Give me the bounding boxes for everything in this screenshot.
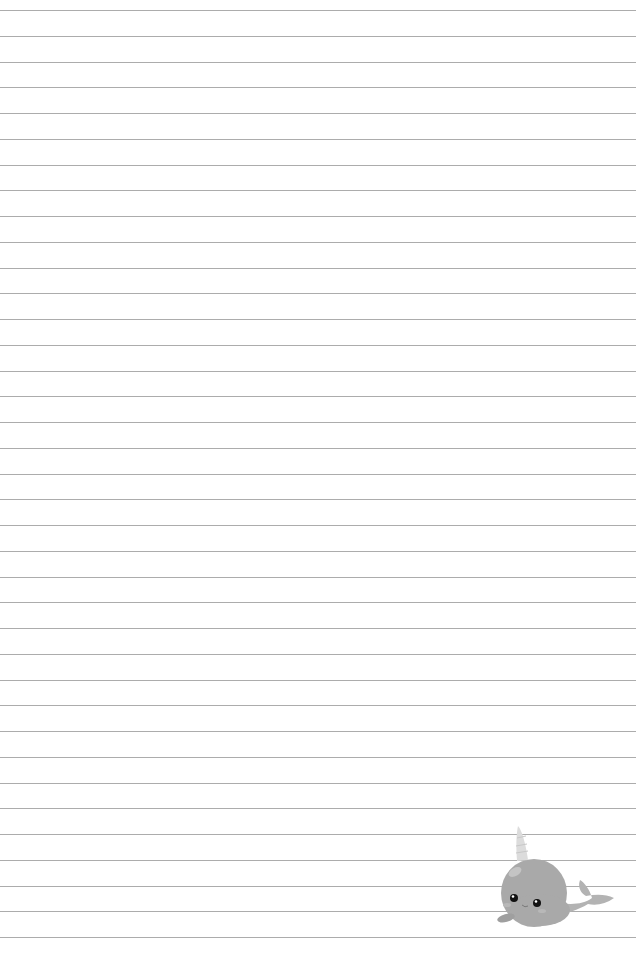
ruled-line — [0, 628, 636, 629]
ruled-line — [0, 216, 636, 217]
ruled-line — [0, 293, 636, 294]
ruled-line — [0, 525, 636, 526]
ruled-line — [0, 36, 636, 37]
ruled-line — [0, 448, 636, 449]
ruled-line — [0, 551, 636, 552]
narwhal-illustration — [470, 818, 636, 942]
ruled-line — [0, 345, 636, 346]
ruled-line — [0, 190, 636, 191]
narwhal-left-eye — [510, 894, 518, 902]
ruled-line — [0, 577, 636, 578]
ruled-line — [0, 705, 636, 706]
ruled-line — [0, 396, 636, 397]
ruled-line — [0, 319, 636, 320]
ruled-line — [0, 654, 636, 655]
ruled-line — [0, 808, 636, 809]
ruled-line — [0, 499, 636, 500]
narwhal-right-eye — [533, 899, 541, 907]
ruled-line — [0, 371, 636, 372]
narwhal-horn — [516, 826, 528, 861]
ruled-line — [0, 602, 636, 603]
ruled-line — [0, 680, 636, 681]
ruled-line — [0, 757, 636, 758]
ruled-line — [0, 87, 636, 88]
ruled-line — [0, 268, 636, 269]
ruled-line — [0, 113, 636, 114]
ruled-line — [0, 783, 636, 784]
ruled-line — [0, 731, 636, 732]
ruled-line — [0, 474, 636, 475]
ruled-line — [0, 139, 636, 140]
lined-paper-page — [0, 0, 636, 958]
ruled-line — [0, 242, 636, 243]
ruled-line — [0, 10, 636, 11]
ruled-line — [0, 422, 636, 423]
ruled-line — [0, 165, 636, 166]
ruled-line — [0, 62, 636, 63]
